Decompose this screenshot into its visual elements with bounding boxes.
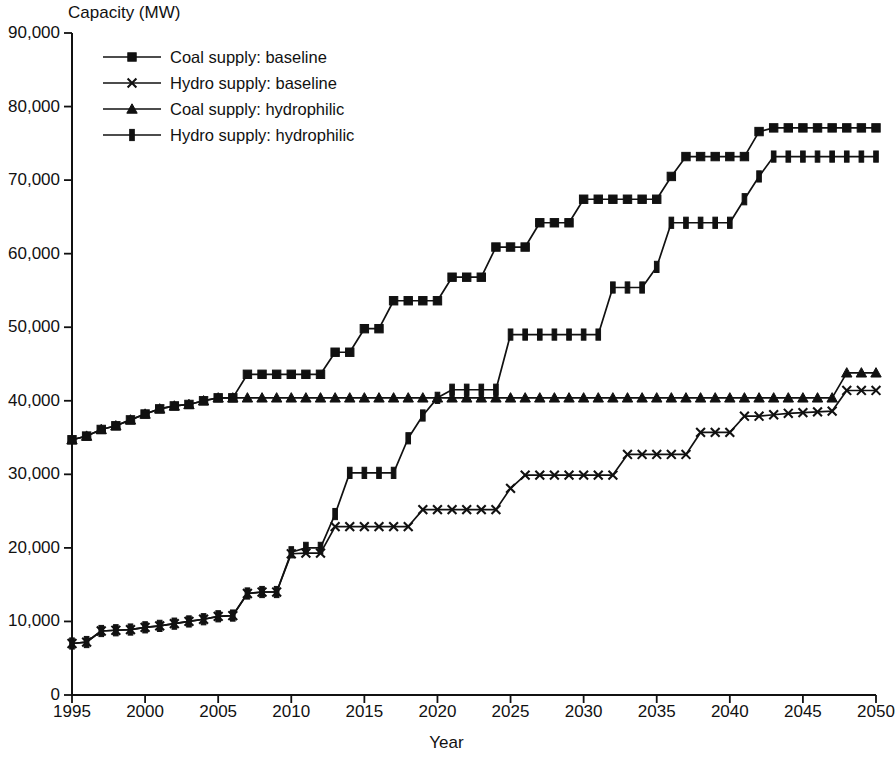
data-marker-square: [316, 370, 324, 378]
data-marker-bar: [611, 282, 616, 293]
data-marker-bar: [421, 410, 426, 421]
data-marker-square: [799, 124, 807, 132]
data-marker-square: [755, 127, 763, 135]
data-marker-bar: [99, 625, 104, 636]
data-marker-bar: [143, 622, 148, 633]
data-marker-bar: [713, 217, 718, 228]
data-marker-bar: [172, 618, 177, 629]
data-marker-square: [128, 53, 136, 61]
y-tick-label: 20,000: [0, 538, 60, 558]
data-marker-square: [857, 124, 865, 132]
data-marker-bar: [757, 171, 762, 182]
data-marker-bar: [84, 636, 89, 647]
data-marker-bar: [304, 542, 309, 553]
data-marker-square: [740, 152, 748, 160]
data-marker-square: [477, 273, 485, 281]
x-tick-label: 2045: [784, 702, 822, 722]
data-marker-bar: [786, 151, 791, 162]
data-marker-bar: [552, 329, 557, 340]
data-marker-bar: [377, 467, 382, 478]
data-marker-square: [302, 370, 310, 378]
data-marker-bar: [669, 217, 674, 228]
data-marker-bar: [70, 638, 75, 649]
data-marker-bar: [567, 329, 572, 340]
series-line: [72, 128, 876, 440]
data-marker-bar: [289, 547, 294, 558]
x-tick-label: 2020: [419, 702, 457, 722]
data-marker-bar: [362, 467, 367, 478]
data-marker-bar: [581, 329, 586, 340]
data-marker-bar: [245, 588, 250, 599]
legend-label-1: Hydro supply: baseline: [170, 74, 337, 92]
y-tick-label: 30,000: [0, 464, 60, 484]
data-marker-square: [667, 172, 675, 180]
data-marker-square: [711, 152, 719, 160]
y-tick-label: 0: [0, 685, 60, 705]
data-marker-square: [872, 124, 880, 132]
chart-legend: Coal supply: baselineHydro supply: basel…: [103, 48, 354, 144]
y-tick-label: 50,000: [0, 317, 60, 337]
x-tick-label: 2000: [126, 702, 164, 722]
data-marker-bar: [640, 282, 645, 293]
data-marker-square: [609, 195, 617, 203]
data-marker-bar: [391, 467, 396, 478]
x-tick-label: 2005: [199, 702, 237, 722]
data-marker-bar: [406, 433, 411, 444]
y-tick-label: 10,000: [0, 611, 60, 631]
data-marker-bar: [216, 611, 221, 622]
data-marker-square: [594, 195, 602, 203]
data-marker-bar: [625, 282, 630, 293]
y-tick-label: 80,000: [0, 97, 60, 117]
data-marker-bar: [494, 384, 499, 395]
data-marker-square: [843, 124, 851, 132]
x-tick-label: 2040: [711, 702, 749, 722]
data-marker-bar: [815, 151, 820, 162]
data-marker-square: [360, 324, 368, 332]
data-marker-bar: [508, 329, 513, 340]
data-marker-bar: [130, 129, 135, 140]
data-marker-square: [433, 297, 441, 305]
data-marker-bar: [128, 624, 133, 635]
data-marker-bar: [523, 329, 528, 340]
data-marker-bar: [801, 151, 806, 162]
data-marker-square: [784, 124, 792, 132]
data-marker-bar: [201, 614, 206, 625]
data-marker-square: [389, 297, 397, 305]
data-marker-bar: [435, 392, 440, 403]
data-marker-square: [462, 273, 470, 281]
data-marker-square: [550, 219, 558, 227]
data-marker-square: [448, 273, 456, 281]
x-tick-label: 2030: [565, 702, 603, 722]
data-marker-square: [331, 348, 339, 356]
data-marker-bar: [260, 586, 265, 597]
data-marker-square: [272, 370, 280, 378]
series-2: [67, 368, 881, 444]
data-marker-square: [623, 195, 631, 203]
data-marker-bar: [231, 610, 236, 621]
data-marker-square: [653, 195, 661, 203]
legend-label-0: Coal supply: baseline: [170, 48, 327, 66]
data-marker-square: [287, 370, 295, 378]
x-tick-label: 2015: [345, 702, 383, 722]
x-tick-label: 2050: [857, 702, 895, 722]
data-marker-square: [769, 124, 777, 132]
data-marker-bar: [157, 620, 162, 631]
data-marker-bar: [274, 586, 279, 597]
data-marker-square: [375, 324, 383, 332]
legend-label-3: Hydro supply: hydrophilic: [170, 126, 354, 144]
series-1: [68, 386, 881, 648]
data-marker-square: [813, 124, 821, 132]
x-tick-label: 2010: [272, 702, 310, 722]
data-marker-bar: [830, 151, 835, 162]
data-marker-bar: [537, 329, 542, 340]
y-tick-label: 70,000: [0, 170, 60, 190]
series-line: [72, 390, 876, 643]
x-tick-label: 1995: [53, 702, 91, 722]
data-marker-bar: [318, 542, 323, 553]
data-marker-bar: [844, 151, 849, 162]
x-tick-label: 2025: [492, 702, 530, 722]
data-marker-bar: [771, 151, 776, 162]
data-marker-bar: [654, 261, 659, 272]
